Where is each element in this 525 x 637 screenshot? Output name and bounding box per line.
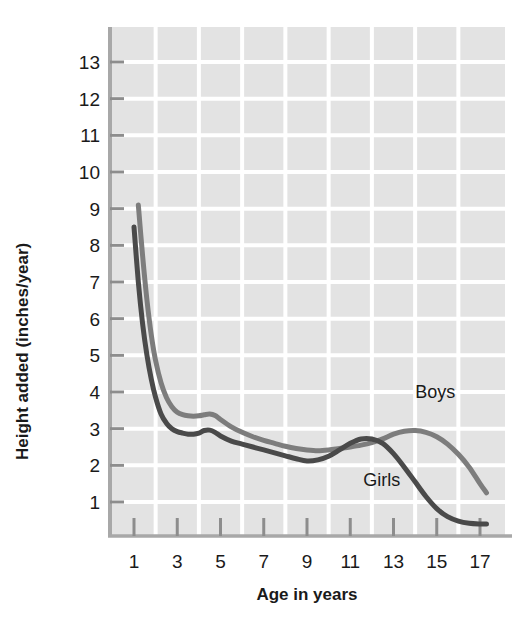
x-tick-label: 1 [129,551,140,572]
y-tick-label: 4 [89,382,100,403]
y-tick-label: 1 [89,492,100,513]
y-tick-label: 12 [79,89,100,110]
y-tick-label: 5 [89,345,100,366]
series-label-boys: Boys [415,382,455,402]
y-axis-title: Height added (inches/year) [13,243,32,460]
y-tick-label: 11 [80,125,100,146]
y-tick-label: 7 [89,272,100,293]
y-tick-label: 9 [89,199,100,220]
y-tick-label: 2 [89,455,100,476]
y-tick-label: 6 [89,309,100,330]
x-tick-label: 11 [340,551,360,572]
series-label-girls: Girls [363,470,400,490]
x-tick-label: 17 [469,551,490,572]
x-tick-label: 15 [426,551,447,572]
x-axis-title: Age in years [256,585,357,604]
y-tick-label: 3 [89,419,100,440]
x-tick-label: 7 [258,551,269,572]
y-tick-label: 13 [79,52,100,73]
x-tick-label: 13 [383,551,404,572]
x-tick-label: 3 [172,551,183,572]
chart-figure: 12345678910111213 1357911131517 Boys Gir… [0,0,525,637]
x-tick-label: 9 [302,551,313,572]
y-tick-label: 8 [89,235,100,256]
y-tick-label: 10 [79,162,100,183]
growth-velocity-chart: 12345678910111213 1357911131517 Boys Gir… [0,0,525,637]
x-tick-label: 5 [215,551,226,572]
